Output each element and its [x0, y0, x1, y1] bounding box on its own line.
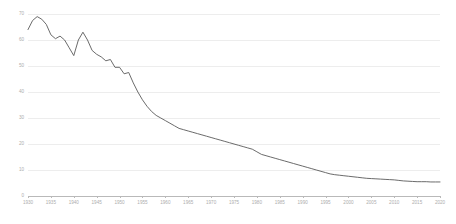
x-tick-1995 [326, 196, 327, 198]
x-tick-1985 [280, 196, 281, 198]
x-tick-label-1960: 1960 [160, 201, 170, 206]
y-tick-label-60: 60 [8, 38, 24, 43]
y-tick-label-20: 20 [8, 142, 24, 147]
x-tick-1975 [234, 196, 235, 198]
x-tick-2000 [348, 196, 349, 198]
x-tick-label-1965: 1965 [183, 201, 193, 206]
x-tick-1950 [120, 196, 121, 198]
x-tick-label-2005: 2005 [366, 201, 376, 206]
x-tick-label-1980: 1980 [252, 201, 262, 206]
series-polyline [28, 17, 440, 182]
x-tick-1930 [28, 196, 29, 198]
y-tick-label-10: 10 [8, 168, 24, 173]
series-line-rate [28, 14, 440, 196]
y-tick-label-0: 0 [8, 194, 24, 199]
x-tick-1970 [211, 196, 212, 198]
x-tick-label-2015: 2015 [412, 201, 422, 206]
x-tick-label-1940: 1940 [69, 201, 79, 206]
y-tick-label-30: 30 [8, 116, 24, 121]
x-tick-1990 [303, 196, 304, 198]
y-tick-label-40: 40 [8, 90, 24, 95]
x-tick-1945 [97, 196, 98, 198]
x-tick-1955 [142, 196, 143, 198]
x-tick-label-2000: 2000 [343, 201, 353, 206]
x-tick-label-1935: 1935 [46, 201, 56, 206]
x-tick-label-1950: 1950 [114, 201, 124, 206]
x-tick-label-1975: 1975 [229, 201, 239, 206]
x-tick-label-2020: 2020 [435, 201, 445, 206]
x-tick-label-2010: 2010 [389, 201, 399, 206]
y-tick-label-50: 50 [8, 64, 24, 69]
x-tick-label-1945: 1945 [92, 201, 102, 206]
line-chart: 010203040506070 193019351940194519501955… [0, 0, 456, 224]
x-tick-label-1990: 1990 [298, 201, 308, 206]
x-tick-label-1955: 1955 [137, 201, 147, 206]
x-tick-1935 [51, 196, 52, 198]
plot-area [28, 14, 440, 196]
y-tick-label-70: 70 [8, 12, 24, 17]
x-tick-label-1985: 1985 [275, 201, 285, 206]
x-tick-label-1970: 1970 [206, 201, 216, 206]
x-tick-1980 [257, 196, 258, 198]
x-tick-2020 [440, 196, 441, 198]
x-tick-1965 [188, 196, 189, 198]
x-tick-1960 [165, 196, 166, 198]
x-tick-2015 [417, 196, 418, 198]
x-tick-label-1995: 1995 [320, 201, 330, 206]
x-tick-2010 [394, 196, 395, 198]
x-tick-2005 [371, 196, 372, 198]
x-tick-label-1930: 1930 [23, 201, 33, 206]
x-tick-1940 [74, 196, 75, 198]
